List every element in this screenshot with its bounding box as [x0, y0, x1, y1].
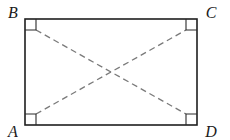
vertex-label-A: A	[7, 123, 18, 140]
vertex-label-C: C	[206, 4, 217, 21]
vertex-label-B: B	[8, 4, 18, 21]
vertex-label-D: D	[204, 123, 217, 140]
rectangle-diagram-svg: B C D A	[0, 0, 230, 140]
geometry-figure-container: B C D A	[0, 0, 230, 140]
